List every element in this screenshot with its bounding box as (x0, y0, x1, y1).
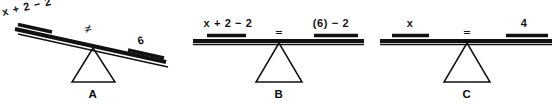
panel-c-right-label: 4 (521, 17, 528, 29)
panel-b-left-label: x + 2 − 2 (204, 17, 253, 29)
panel-a-left-label: x + 2 − 2 (1, 0, 53, 18)
panel-a-letter: A (89, 88, 98, 100)
panel-a-fulcrum-triangle (72, 48, 115, 82)
balance-panel-c: x 4 = C (372, 0, 558, 104)
panel-a-beam-underline (18, 34, 168, 67)
panel-b-fulcrum-triangle (256, 43, 302, 82)
panel-b-relation-symbol: = (275, 25, 282, 40)
balance-panel-b: x + 2 − 2 (6) − 2 = B (186, 0, 372, 104)
panel-c-left-label: x (407, 17, 414, 29)
panel-c-fulcrum-triangle (444, 43, 490, 82)
panel-c-relation-symbol: = (463, 25, 470, 40)
balance-scale-figure: x + 2 − 2 ≠ 6 A x + 2 − 2 (6) − 2 (0, 0, 558, 104)
panel-a-right-label: 6 (136, 33, 145, 46)
panel-a-relation-symbol: ≠ (83, 21, 93, 37)
panel-b-right-label: (6) − 2 (313, 17, 349, 29)
panel-c-letter: C (463, 88, 472, 100)
panel-b-letter: B (275, 88, 284, 100)
balance-panel-a: x + 2 − 2 ≠ 6 A (0, 0, 186, 104)
